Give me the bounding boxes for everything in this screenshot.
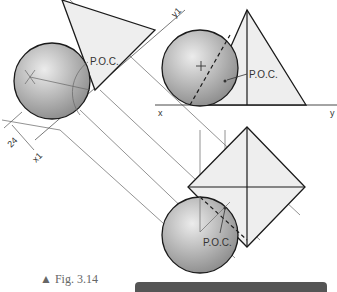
dimension-label: 24: [5, 135, 19, 149]
caption-text: Fig. 3.14: [55, 272, 98, 286]
caption-bar: [135, 282, 327, 292]
aux-sphere: [14, 43, 90, 119]
poc-label-top: P.O.C.: [203, 237, 232, 248]
poc-label-aux: P.O.C.: [90, 56, 119, 67]
poc-label-front: P.O.C.: [249, 69, 278, 80]
y-label: y: [330, 108, 335, 118]
y1-label: y1: [169, 6, 183, 20]
caption-marker: ▲: [40, 272, 52, 286]
x1-label: x1: [30, 151, 44, 165]
x-label: x: [158, 108, 163, 118]
figure-caption: ▲ Fig. 3.14: [40, 272, 98, 287]
